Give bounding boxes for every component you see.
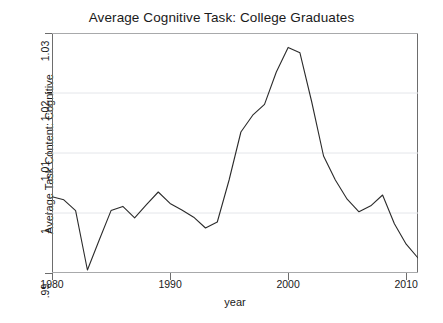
data-series-line — [52, 47, 418, 270]
y-tick-label: 1.02 — [39, 91, 51, 131]
y-tick-mark — [45, 213, 52, 214]
y-tick-mark — [45, 33, 52, 34]
y-axis-ticks: .9911.011.021.03 — [0, 0, 45, 323]
y-tick-label: 1.01 — [39, 151, 51, 191]
y-tick-mark — [45, 273, 52, 274]
y-tick-label: 1 — [39, 211, 51, 251]
x-tick-mark — [52, 273, 53, 280]
x-axis-label: year — [52, 296, 418, 308]
y-tick-mark — [45, 153, 52, 154]
plot-area — [52, 33, 418, 273]
y-tick-label: .99 — [39, 271, 51, 311]
x-tick-mark — [170, 273, 171, 280]
chart-title: Average Cognitive Task: College Graduate… — [0, 10, 443, 25]
x-tick-mark — [406, 273, 407, 280]
gridlines — [52, 33, 418, 273]
y-tick-mark — [45, 93, 52, 94]
chart-page: Average Cognitive Task: College Graduate… — [0, 0, 443, 323]
y-tick-label: 1.03 — [39, 31, 51, 71]
x-tick-mark — [288, 273, 289, 280]
